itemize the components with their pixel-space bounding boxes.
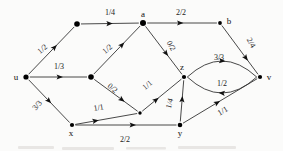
edge-flow-capacity-label: 1/2: [36, 42, 50, 55]
node-labels-layer: uabzvxy: [14, 9, 272, 138]
edge-flow-capacity-label: 0/2: [165, 39, 178, 52]
graph-node-a: [140, 20, 146, 26]
graph-edge: [29, 27, 75, 74]
node-label-a: a: [141, 9, 145, 19]
edge-flow-capacity-label: 2/2: [120, 135, 130, 144]
node-label-v: v: [267, 72, 272, 82]
graph-node-v: [258, 75, 262, 79]
graph-node-b: [218, 21, 222, 25]
graph-edge: [222, 25, 258, 74]
graph-node-unlabeled: [74, 21, 80, 27]
edge-flow-capacity-label: 1/1: [93, 102, 105, 112]
flow-network-canvas: 1/21/42/21/31/20/22/43/30/21/11/12/21/41…: [0, 0, 283, 151]
graph-node-z: [182, 75, 186, 79]
graph-node-x: [70, 123, 74, 127]
edge-arrowhead: [242, 54, 250, 62]
node-label-z: z: [180, 62, 184, 72]
edge-flow-capacity-label: 2/4: [245, 36, 258, 49]
graph-node-unlabeled: [88, 74, 94, 80]
edge-flow-capacity-label: 1/4: [164, 97, 175, 109]
graph-edge: [146, 26, 182, 74]
edge-arrowhead: [213, 99, 221, 107]
scan-artifacts-layer: [18, 146, 236, 150]
graph-edge: [75, 114, 137, 125]
edge-flow-capacity-label: 1/4: [105, 8, 115, 17]
edge-flow-capacity-label: 1/1: [141, 78, 155, 91]
edge-flow-capacity-label: 3/3: [30, 99, 44, 113]
flow-network-figure: 1/21/42/21/31/20/22/43/30/21/11/12/21/41…: [0, 0, 283, 151]
node-label-b: b: [227, 16, 232, 26]
graph-edge: [187, 61, 256, 77]
graph-node-unlabeled: [138, 111, 141, 114]
node-label-u: u: [14, 72, 19, 82]
edge-flow-capacity-label: 1/1: [216, 104, 229, 117]
graph-node-y: [178, 123, 183, 128]
edge-flow-capacity-label: 0/2: [106, 81, 120, 94]
edge-flow-capacity-label: 1/2: [217, 79, 227, 88]
node-label-y: y: [178, 128, 183, 138]
edge-flow-capacity-label: 2/2: [176, 8, 186, 17]
edge-flow-capacity-label: 1/3: [54, 62, 64, 71]
node-label-x: x: [69, 128, 74, 138]
graph-node-u: [23, 74, 28, 79]
edge-flow-capacity-label: 3/3: [214, 53, 224, 62]
edge-flow-capacity-label: 1/2: [101, 42, 115, 55]
edge-arrowhead: [118, 96, 126, 104]
